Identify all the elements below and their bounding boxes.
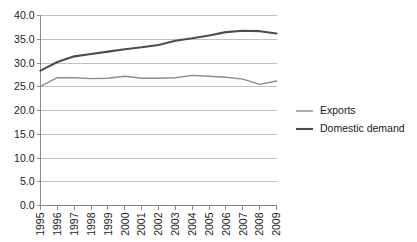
y-tick-label: 40.0 — [14, 9, 35, 21]
legend-label-exports: Exports — [320, 104, 356, 116]
y-tick-label: 15.0 — [14, 128, 35, 140]
y-tick-label: 20.0 — [14, 104, 35, 116]
y-tick-label: 35.0 — [14, 33, 35, 45]
y-tick-label: 5.0 — [20, 175, 35, 187]
x-tick-label: 2007 — [237, 212, 249, 236]
x-tick-label: 1997 — [68, 212, 80, 236]
x-tick-label: 2004 — [186, 212, 198, 236]
x-tick-label: 1999 — [102, 212, 114, 236]
line-chart: 0.05.010.015.020.025.030.035.040.0 19951… — [0, 0, 417, 242]
x-tick-label: 2003 — [169, 212, 181, 236]
x-tick-label: 2001 — [135, 212, 147, 236]
x-tick-label: 2005 — [203, 212, 215, 236]
x-tick-label: 1996 — [51, 212, 63, 236]
x-tick-label: 1995 — [34, 212, 46, 236]
x-tick-label: 2000 — [119, 212, 131, 236]
legend-label-domestic-demand: Domestic demand — [320, 122, 405, 134]
x-tick-label: 1998 — [85, 212, 97, 236]
x-tick-label: 2008 — [253, 212, 265, 236]
y-tick-label: 10.0 — [14, 152, 35, 164]
x-tick-label: 2002 — [152, 212, 164, 236]
y-tick-label: 25.0 — [14, 80, 35, 92]
x-tick-label: 2006 — [220, 212, 232, 236]
x-tick-label: 2009 — [270, 212, 282, 236]
chart-container: 0.05.010.015.020.025.030.035.040.0 19951… — [0, 0, 417, 242]
y-tick-label: 30.0 — [14, 57, 35, 69]
y-tick-label: 0.0 — [20, 199, 35, 211]
x-tick-labels: 1995199619971998199920002001200220032004… — [34, 212, 282, 236]
